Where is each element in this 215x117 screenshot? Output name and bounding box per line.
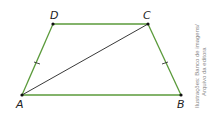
vertex-label-b: B xyxy=(177,98,185,111)
vertex-label-c: C xyxy=(143,9,151,22)
side-bc xyxy=(148,24,181,95)
trapezoid-diagram: A B C D Ilustrações: Banco de imagens/ A… xyxy=(0,0,215,117)
vertex-label-a: A xyxy=(15,98,24,111)
vertex-point-b xyxy=(179,93,182,96)
vertex-point-d xyxy=(51,22,54,25)
vertex-point-c xyxy=(146,22,149,25)
vertex-label-d: D xyxy=(50,9,58,22)
credit-line-2: Arquivo da editora xyxy=(201,47,207,96)
vertex-point-a xyxy=(20,93,23,96)
credit-line-1: Ilustrações: Banco de imagens/ xyxy=(194,24,200,108)
congruence-tick-ad xyxy=(34,62,40,64)
diagonal-ac xyxy=(22,24,148,95)
side-da xyxy=(22,24,53,95)
